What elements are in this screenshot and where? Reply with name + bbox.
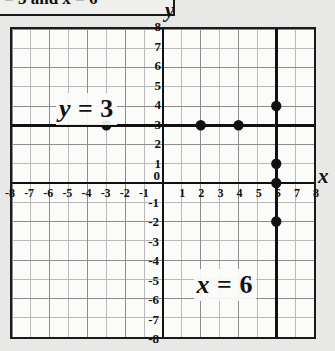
y-tick-label: -1 xyxy=(143,196,159,209)
equation-annotation: y = 3 xyxy=(56,93,117,125)
y-tick-label: 6 xyxy=(145,59,161,72)
caption-fragment: = 3 and x = 6 xyxy=(4,0,98,8)
x-tick-label: 4 xyxy=(230,187,250,199)
y-tick-label: -7 xyxy=(143,313,159,326)
x-tick-label: -5 xyxy=(57,187,77,199)
x-tick-label: 1 xyxy=(172,187,192,199)
plotted-point xyxy=(271,159,281,169)
equation-operator-value: = 6 xyxy=(210,270,253,299)
x-tick-label: -8 xyxy=(0,187,20,199)
x-tick-label: 8 xyxy=(306,187,326,199)
y-tick-label: -6 xyxy=(143,293,159,306)
y-tick-label: -3 xyxy=(143,235,159,248)
equation-text: x = 6 xyxy=(197,270,253,299)
plotted-point xyxy=(271,101,281,111)
equation-text: y = 3 xyxy=(59,94,114,123)
x-tick-label: 5 xyxy=(249,187,269,199)
equation-variable: x xyxy=(197,270,211,299)
x-tick-label: -2 xyxy=(115,187,135,199)
origin-label: 0 xyxy=(144,169,160,182)
y-tick-label: 7 xyxy=(145,40,161,53)
coordinate-plane xyxy=(10,27,316,339)
graph-figure: = 3 and x = 6 -8-7-6-5-4-3-2-11234567801… xyxy=(0,0,335,351)
y-axis-label: y xyxy=(165,0,174,21)
y-tick-label: 3 xyxy=(145,118,161,131)
x-tick-label: 7 xyxy=(287,187,307,199)
y-tick-label: 4 xyxy=(145,98,161,111)
plotted-point xyxy=(271,216,281,226)
caption-text: = 3 and x = 6 xyxy=(4,0,98,9)
y-tick-label: 8 xyxy=(145,20,161,33)
equation-variable: y xyxy=(59,94,71,123)
x-tick-label: 2 xyxy=(191,187,211,199)
equation-operator-value: = 3 xyxy=(71,94,114,123)
x-tick-label: -6 xyxy=(38,187,58,199)
x-tick-label: -4 xyxy=(77,187,97,199)
equation-annotation: x = 6 xyxy=(194,269,256,301)
y-tick-label: -4 xyxy=(143,254,159,267)
y-tick-label: -5 xyxy=(143,274,159,287)
x-tick-label: -3 xyxy=(96,187,116,199)
caption-clipped-box: = 3 and x = 6 xyxy=(0,0,175,16)
grid-svg xyxy=(12,29,314,337)
plotted-point xyxy=(233,120,243,130)
x-axis-label: x xyxy=(318,166,329,187)
x-tick-label: -7 xyxy=(19,187,39,199)
y-tick-label: 2 xyxy=(145,137,161,150)
x-tick-label: 6 xyxy=(268,187,288,199)
plotted-point xyxy=(196,120,206,130)
y-tick-label: -2 xyxy=(143,215,159,228)
y-tick-label: 5 xyxy=(145,79,161,92)
y-tick-label: -8 xyxy=(143,332,159,345)
y-tick-label: 1 xyxy=(145,157,161,170)
x-tick-label: 3 xyxy=(210,187,230,199)
